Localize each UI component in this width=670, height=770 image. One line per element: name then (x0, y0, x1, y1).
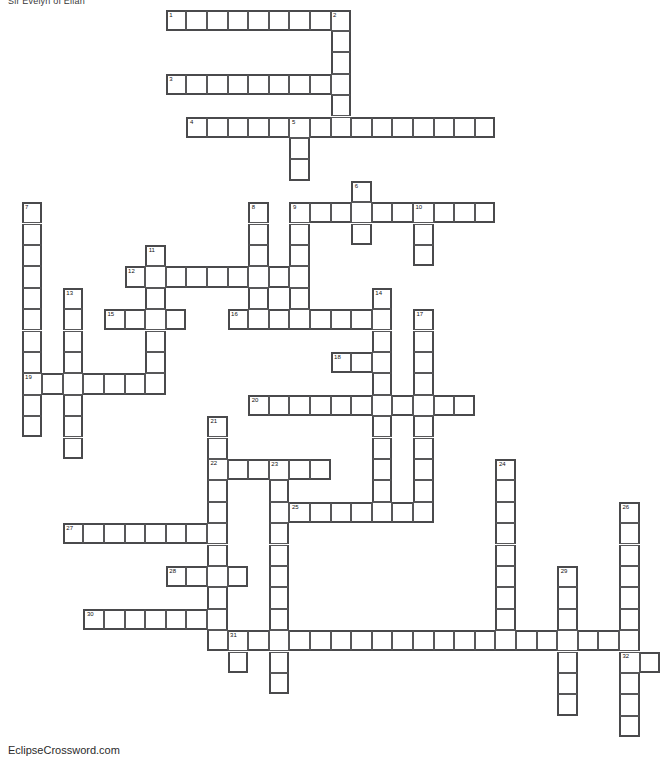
grid-cell[interactable] (640, 652, 661, 673)
grid-cell[interactable] (269, 117, 290, 138)
grid-cell[interactable] (228, 74, 249, 95)
grid-cell[interactable] (186, 566, 207, 587)
grid-cell[interactable] (207, 609, 228, 630)
grid-cell[interactable] (557, 673, 578, 694)
grid-cell[interactable] (289, 266, 310, 287)
grid-cell[interactable] (207, 74, 228, 95)
grid-cell[interactable] (413, 630, 434, 651)
grid-cell[interactable] (125, 373, 146, 394)
grid-cell[interactable] (207, 480, 228, 501)
grid-cell[interactable] (22, 224, 43, 245)
grid-cell[interactable] (578, 630, 599, 651)
grid-cell[interactable] (145, 523, 166, 544)
grid-cell[interactable] (248, 630, 269, 651)
grid-cell[interactable] (495, 523, 516, 544)
grid-cell[interactable] (495, 545, 516, 566)
grid-cell[interactable] (434, 630, 455, 651)
grid-cell[interactable] (598, 630, 619, 651)
grid-cell[interactable] (248, 245, 269, 266)
grid-cell[interactable] (619, 673, 640, 694)
grid-cell[interactable] (22, 416, 43, 437)
grid-cell[interactable] (392, 117, 413, 138)
grid-cell[interactable] (207, 502, 228, 523)
grid-cell-numbered-24[interactable]: 24 (495, 459, 516, 480)
grid-cell[interactable] (434, 202, 455, 223)
grid-cell[interactable] (207, 545, 228, 566)
grid-cell[interactable] (351, 395, 372, 416)
grid-cell-numbered-29[interactable]: 29 (557, 566, 578, 587)
grid-cell[interactable] (351, 502, 372, 523)
grid-cell[interactable] (289, 459, 310, 480)
grid-cell[interactable] (289, 395, 310, 416)
grid-cell[interactable] (248, 74, 269, 95)
grid-cell[interactable] (495, 630, 516, 651)
grid-cell[interactable] (248, 288, 269, 309)
grid-cell[interactable] (269, 266, 290, 287)
grid-cell[interactable] (495, 502, 516, 523)
grid-cell[interactable] (269, 609, 290, 630)
grid-cell-numbered-20[interactable]: 20 (248, 395, 269, 416)
grid-cell[interactable] (269, 545, 290, 566)
grid-cell-numbered-16[interactable]: 16 (228, 309, 249, 330)
grid-cell[interactable] (331, 395, 352, 416)
grid-cell[interactable] (372, 331, 393, 352)
grid-cell-numbered-28[interactable]: 28 (166, 566, 187, 587)
grid-cell[interactable] (248, 266, 269, 287)
grid-cell[interactable] (392, 630, 413, 651)
grid-cell[interactable] (269, 74, 290, 95)
grid-cell[interactable] (269, 523, 290, 544)
grid-cell[interactable] (413, 416, 434, 437)
grid-cell-numbered-17[interactable]: 17 (413, 309, 434, 330)
grid-cell-numbered-5[interactable]: 5 (289, 117, 310, 138)
grid-cell[interactable] (63, 309, 84, 330)
grid-cell[interactable] (269, 502, 290, 523)
grid-cell[interactable] (331, 502, 352, 523)
grid-cell[interactable] (207, 630, 228, 651)
grid-cell[interactable] (495, 587, 516, 608)
grid-cell[interactable] (372, 438, 393, 459)
grid-cell[interactable] (372, 117, 393, 138)
grid-cell[interactable] (331, 117, 352, 138)
grid-cell[interactable] (289, 288, 310, 309)
grid-cell[interactable] (310, 202, 331, 223)
grid-cell[interactable] (495, 480, 516, 501)
grid-cell[interactable] (537, 630, 558, 651)
grid-cell-numbered-22[interactable]: 22 (207, 459, 228, 480)
grid-cell[interactable] (310, 74, 331, 95)
grid-cell[interactable] (22, 395, 43, 416)
grid-cell[interactable] (310, 502, 331, 523)
grid-cell[interactable] (413, 245, 434, 266)
grid-cell[interactable] (186, 266, 207, 287)
grid-cell-numbered-3[interactable]: 3 (166, 74, 187, 95)
grid-cell[interactable] (207, 266, 228, 287)
grid-cell-numbered-1[interactable]: 1 (166, 10, 187, 31)
grid-cell[interactable] (104, 523, 125, 544)
grid-cell[interactable] (557, 630, 578, 651)
grid-cell[interactable] (83, 523, 104, 544)
grid-cell[interactable] (145, 352, 166, 373)
grid-cell[interactable] (413, 373, 434, 394)
grid-cell[interactable] (166, 609, 187, 630)
grid-cell[interactable] (434, 395, 455, 416)
grid-cell-numbered-2[interactable]: 2 (331, 10, 352, 31)
grid-cell-numbered-30[interactable]: 30 (83, 609, 104, 630)
grid-cell[interactable] (331, 630, 352, 651)
grid-cell[interactable] (619, 545, 640, 566)
grid-cell[interactable] (228, 117, 249, 138)
grid-cell-numbered-10[interactable]: 10 (413, 202, 434, 223)
grid-cell[interactable] (104, 609, 125, 630)
grid-cell[interactable] (63, 331, 84, 352)
grid-cell[interactable] (145, 309, 166, 330)
grid-cell[interactable] (145, 288, 166, 309)
grid-cell[interactable] (372, 309, 393, 330)
grid-cell[interactable] (619, 609, 640, 630)
grid-cell[interactable] (392, 202, 413, 223)
grid-cell[interactable] (145, 266, 166, 287)
grid-cell-numbered-18[interactable]: 18 (331, 352, 352, 373)
grid-cell[interactable] (248, 459, 269, 480)
grid-cell[interactable] (372, 630, 393, 651)
grid-cell-numbered-25[interactable]: 25 (289, 502, 310, 523)
grid-cell[interactable] (516, 630, 537, 651)
grid-cell-numbered-11[interactable]: 11 (145, 245, 166, 266)
grid-cell[interactable] (372, 395, 393, 416)
